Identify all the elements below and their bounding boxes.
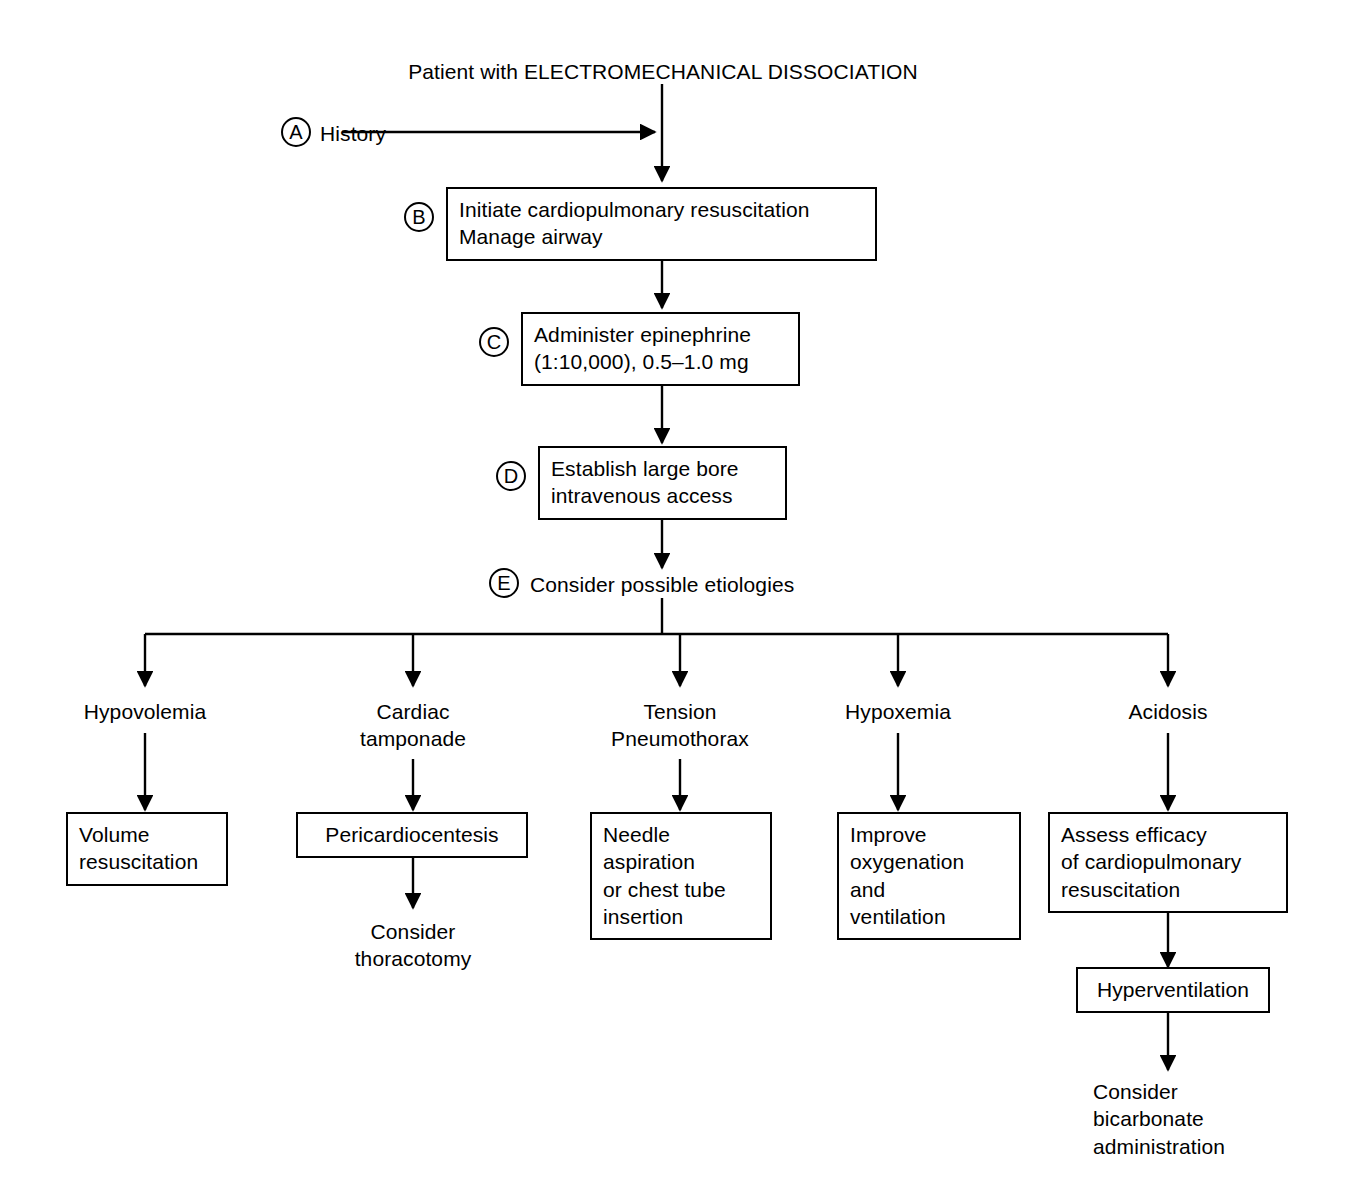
step-marker-a: A — [281, 117, 311, 147]
etiology-label-tension-pneumothorax: Tension Pneumothorax — [580, 698, 780, 753]
step-marker-e: E — [489, 568, 519, 598]
page-title: Patient with ELECTROMECHANICAL DISSOCIAT… — [368, 58, 958, 85]
step-d-box: Establish large bore intravenous access — [538, 446, 787, 520]
treatment-box-hyperventilation: Hyperventilation — [1076, 967, 1270, 1013]
etiology-label-hypovolemia: Hypovolemia — [45, 698, 245, 725]
step-c-box: Administer epinephrine (1:10,000), 0.5–1… — [521, 312, 800, 386]
etiology-label-hypoxemia: Hypoxemia — [798, 698, 998, 725]
etiology-label-cardiac-tamponade: Cardiac tamponade — [313, 698, 513, 753]
step-a-label: History — [320, 120, 460, 147]
flowchart-canvas: Patient with ELECTROMECHANICAL DISSOCIAT… — [0, 0, 1359, 1195]
step-marker-d: D — [496, 461, 526, 491]
followup-label-consider-thoracotomy: Consider thoracotomy — [313, 918, 513, 973]
treatment-box-pericardiocentesis: Pericardiocentesis — [296, 812, 528, 858]
step-e-label: Consider possible etiologies — [530, 571, 860, 598]
followup-label-consider-bicarbonate: Consider bicarbonate administration — [1093, 1078, 1323, 1160]
step-marker-b: B — [404, 202, 434, 232]
treatment-box-hypovolemia: Volume resuscitation — [66, 812, 228, 886]
treatment-box-improve-oxygenation: Improve oxygenation and ventilation — [837, 812, 1021, 940]
etiology-label-acidosis: Acidosis — [1068, 698, 1268, 725]
step-marker-c: C — [479, 327, 509, 357]
treatment-box-needle-aspiration: Needle aspiration or chest tube insertio… — [590, 812, 772, 940]
step-b-box: Initiate cardiopulmonary resuscitation M… — [446, 187, 877, 261]
treatment-box-assess-efficacy: Assess efficacy of cardiopulmonary resus… — [1048, 812, 1288, 913]
